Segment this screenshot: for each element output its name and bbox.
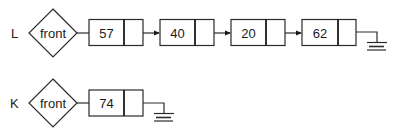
list-node: 20 [231, 20, 285, 46]
node-value: 62 [313, 26, 327, 41]
list-node: 62 [302, 20, 356, 46]
front-pointer-diamond: front [29, 79, 77, 127]
list-name-label: L [11, 26, 18, 41]
node-value: 20 [241, 26, 255, 41]
node-value: 74 [99, 96, 113, 111]
node-value: 40 [170, 26, 184, 41]
node-value: 57 [99, 26, 113, 41]
list-name-label: K [10, 96, 19, 111]
null-ground-icon [143, 103, 174, 121]
null-ground-icon [356, 32, 387, 50]
linked-list-diagram: L front 57 40 20 [0, 0, 401, 137]
front-pointer-diamond: front [29, 9, 77, 57]
list-l: L front 57 40 20 [11, 9, 387, 57]
list-k: K front 74 [10, 79, 174, 127]
list-node: 57 [89, 20, 143, 46]
front-label: front [40, 26, 66, 41]
front-label: front [40, 96, 66, 111]
list-node: 74 [89, 90, 143, 116]
list-node: 40 [160, 20, 214, 46]
